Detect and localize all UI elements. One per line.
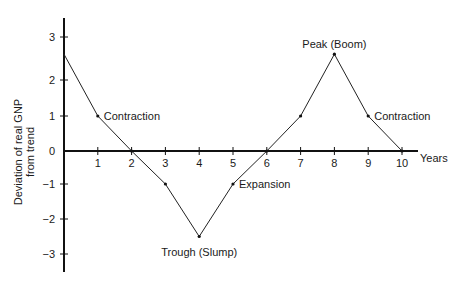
y-tick-label: −1 [42,178,55,190]
y-tick-label: 2 [49,74,55,86]
y-tick-label: 3 [49,31,55,43]
x-tick-label: 5 [230,157,236,169]
x-tick-label: 3 [162,157,168,169]
axes [64,18,418,272]
data-point [333,53,336,56]
y-axis-label-line: Deviation of real GNP [12,99,24,205]
y-tick-label: −3 [42,248,55,260]
data-point [265,149,268,152]
annotation-label: Contraction [104,110,160,122]
y-tick-label: −2 [42,213,55,225]
annotation-label: Trough (Slump) [161,246,237,258]
data-point [96,114,99,117]
y-axis-label: Deviation of real GNPfrom trend [12,99,36,205]
y-tick-label: 0 [49,145,55,157]
data-point [130,149,133,152]
x-tick-label: 9 [365,157,371,169]
data-point [231,182,234,185]
data-point [164,182,167,185]
x-tick-label: 6 [264,157,270,169]
x-tick-label: 8 [331,157,337,169]
business-cycle-chart: Deviation of real GNPfrom trend 3210−1−2… [0,0,455,287]
y-axis-label-line: from trend [24,127,36,177]
x-tick-label: 2 [129,157,135,169]
annotation-label: Peak (Boom) [302,38,366,50]
annotation-label: Contraction [374,110,430,122]
x-tick-label: 7 [298,157,304,169]
data-point [299,114,302,117]
data-series [64,53,404,238]
y-tick-label: 1 [49,110,55,122]
data-point [400,149,403,152]
x-tick-label: 10 [396,157,408,169]
series-line [64,54,402,236]
data-point [367,114,370,117]
annotation-label: Expansion [239,178,290,190]
x-axis-label: Years [420,152,448,164]
x-tick-label: 1 [95,157,101,169]
data-point [198,235,201,238]
x-tick-label: 4 [196,157,202,169]
